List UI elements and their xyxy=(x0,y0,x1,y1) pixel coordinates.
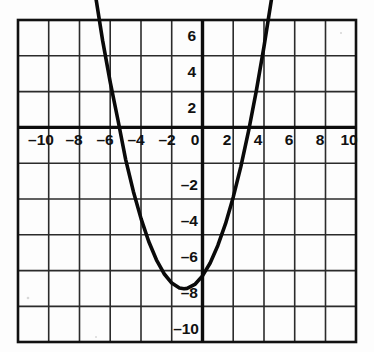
y-tick-label: –10 xyxy=(173,320,199,337)
y-tick-label: 2 xyxy=(187,99,196,116)
y-tick-label: –6 xyxy=(181,248,199,265)
x-tick-label: 2 xyxy=(223,131,232,148)
x-tick-label: 8 xyxy=(316,131,325,148)
x-tick-label: 10 xyxy=(340,131,357,148)
paper-speck xyxy=(27,297,30,300)
y-tick-label: 6 xyxy=(187,27,196,44)
x-tick-label: –10 xyxy=(28,131,54,148)
x-tick-label: –4 xyxy=(127,131,145,148)
y-tick-label: –2 xyxy=(181,176,198,193)
x-tick-label: 4 xyxy=(254,131,263,148)
paper-speck xyxy=(95,336,97,338)
x-tick-label: –6 xyxy=(96,131,114,148)
x-tick-label: –2 xyxy=(158,131,175,148)
y-tick-label: –4 xyxy=(181,212,199,229)
x-tick-label: 6 xyxy=(285,131,294,148)
y-tick-label: 4 xyxy=(187,63,196,80)
x-tick-label: –8 xyxy=(65,131,83,148)
coordinate-plane-svg: –10 –8 –6 –4 –2 0 2 4 6 8 10 6 4 2 –2 –4… xyxy=(0,0,374,352)
paper-speck xyxy=(340,32,342,34)
graph-figure: –10 –8 –6 –4 –2 0 2 4 6 8 10 6 4 2 –2 –4… xyxy=(0,0,374,352)
x-tick-label: 0 xyxy=(191,131,200,148)
